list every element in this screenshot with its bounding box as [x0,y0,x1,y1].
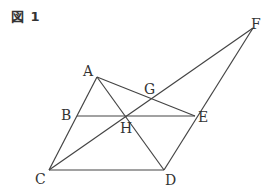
label-H: H [120,120,132,136]
label-C: C [35,171,46,187]
label-D: D [165,172,176,188]
segment-DF [164,28,253,170]
label-F: F [251,16,261,32]
segment-CF [49,28,253,170]
label-B: B [61,107,71,123]
label-G: G [144,81,155,97]
label-A: A [82,63,94,79]
label-E: E [198,109,208,125]
geometry-diagram: A B C D E F G H [0,0,272,190]
segment-AC [49,77,97,170]
